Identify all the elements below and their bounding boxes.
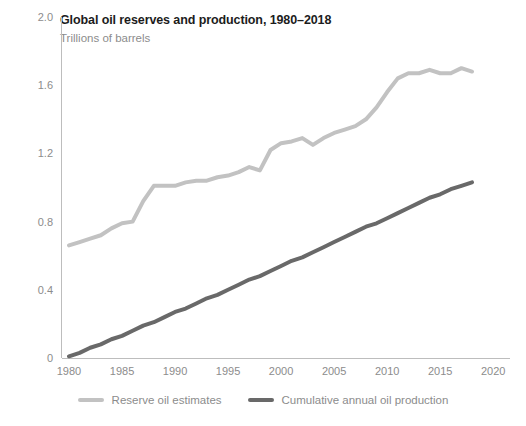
legend-item-reserve-oil-estimates[interactable]: Reserve oil estimates [78, 394, 222, 406]
x-tick-label: 1995 [216, 365, 240, 377]
x-tick-label: 1980 [57, 365, 81, 377]
legend-swatch-icon [248, 398, 274, 402]
legend-item-cumulative-annual-oil-production[interactable]: Cumulative annual oil production [248, 394, 449, 406]
y-tick-label: 0.8 [38, 216, 53, 228]
line-chart-plot: 00.40.81.21.62.0 19801985199019952000200… [0, 0, 526, 426]
x-tick-label: 2020 [481, 365, 505, 377]
x-tick-label: 2015 [428, 365, 452, 377]
legend-label: Cumulative annual oil production [282, 394, 449, 406]
data-series-group [69, 68, 472, 356]
y-tick-label: 2.0 [38, 11, 53, 23]
x-tick-label: 2005 [322, 365, 346, 377]
x-tick-label: 2000 [269, 365, 293, 377]
y-axis: 00.40.81.21.62.0 [38, 11, 62, 364]
y-tick-label: 0.4 [38, 284, 53, 296]
chart-container: Global oil reserves and production, 1980… [0, 0, 526, 426]
series-line-cumulative-annual-oil-production [69, 182, 472, 356]
y-tick-label: 0 [47, 352, 53, 364]
x-tick-label: 2010 [375, 365, 399, 377]
x-axis: 198019851990199520002005201020152020 [57, 359, 510, 378]
legend-swatch-icon [78, 398, 104, 402]
legend-label: Reserve oil estimates [112, 394, 222, 406]
x-tick-label: 1990 [163, 365, 187, 377]
chart-legend: Reserve oil estimates Cumulative annual … [0, 394, 526, 406]
y-tick-label: 1.6 [38, 79, 53, 91]
y-tick-label: 1.2 [38, 147, 53, 159]
x-tick-label: 1985 [110, 365, 134, 377]
series-line-reserve-oil-estimates [69, 68, 472, 245]
